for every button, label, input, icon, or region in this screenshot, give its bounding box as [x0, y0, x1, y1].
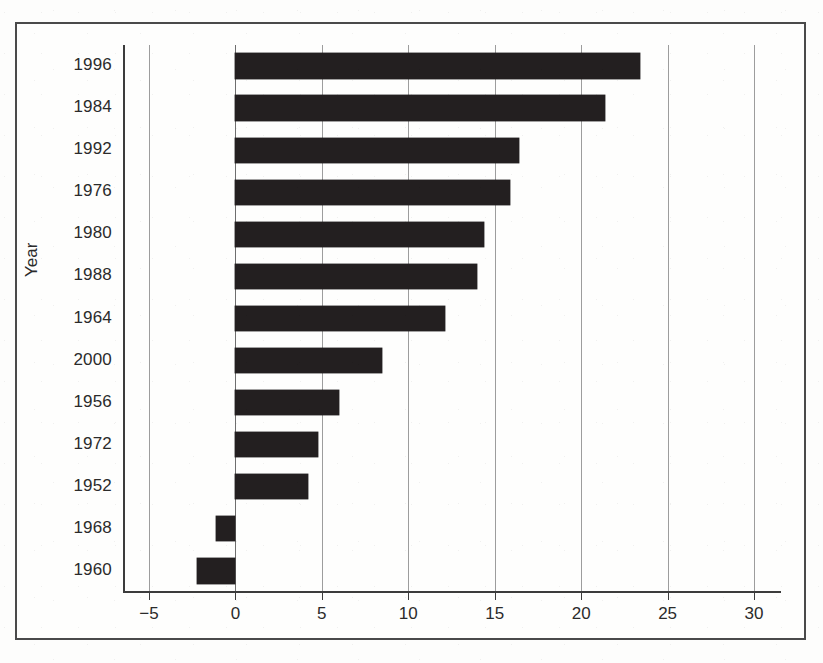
x-tick-mark: [581, 593, 582, 600]
gridline: [754, 45, 755, 592]
x-tick-mark: [149, 593, 150, 600]
x-tick-label: 10: [399, 604, 418, 624]
x-tick-label: 5: [317, 604, 326, 624]
x-tick-label: −5: [139, 604, 158, 624]
x-tick-mark: [668, 593, 669, 600]
y-axis-spine: [123, 45, 125, 592]
gridline: [581, 45, 582, 592]
bar: [216, 516, 235, 541]
y-axis-tick-labels: 1996198419921976198019881964200019561972…: [0, 45, 112, 592]
x-tick-mark: [322, 593, 323, 600]
gridline: [149, 45, 150, 592]
gridline: [495, 45, 496, 592]
x-tick-mark: [408, 593, 409, 600]
x-tick-mark: [495, 593, 496, 600]
bar: [235, 390, 339, 415]
bar: [235, 95, 605, 120]
x-tick-label: 0: [231, 604, 240, 624]
bar: [235, 348, 382, 373]
x-tick-mark: [754, 593, 755, 600]
y-tick-label: 1988: [73, 265, 112, 285]
bar: [235, 432, 318, 457]
bar: [235, 222, 484, 247]
y-tick-label: 2000: [73, 350, 112, 370]
y-tick-label: 1952: [73, 476, 112, 496]
gridline: [668, 45, 669, 592]
bar: [197, 558, 235, 583]
y-tick-label: 1976: [73, 181, 112, 201]
y-tick-label: 1996: [73, 55, 112, 75]
x-tick-label: 20: [572, 604, 591, 624]
bar: [235, 264, 477, 289]
figure-container: 1996198419921976198019881964200019561972…: [0, 0, 823, 663]
bar: [235, 138, 519, 163]
y-axis-title: Year: [22, 243, 42, 277]
y-tick-label: 1956: [73, 392, 112, 412]
x-axis-spine: [123, 591, 781, 593]
x-tick-label: 15: [485, 604, 504, 624]
bar: [235, 306, 444, 331]
bar: [235, 180, 510, 205]
bar: [235, 474, 308, 499]
y-tick-label: 1992: [73, 139, 112, 159]
x-tick-label: 30: [745, 604, 764, 624]
x-tick-label: 25: [658, 604, 677, 624]
y-tick-label: 1980: [73, 223, 112, 243]
y-tick-label: 1960: [73, 560, 112, 580]
y-tick-label: 1964: [73, 308, 112, 328]
y-tick-label: 1972: [73, 434, 112, 454]
y-tick-label: 1984: [73, 97, 112, 117]
bar: [235, 53, 640, 78]
y-tick-label: 1968: [73, 518, 112, 538]
plot-area: [123, 45, 780, 592]
x-tick-mark: [235, 593, 236, 600]
